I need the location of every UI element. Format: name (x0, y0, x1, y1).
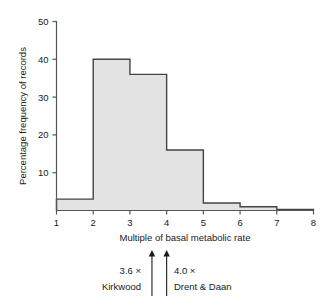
x-tick-label: 2 (91, 217, 96, 228)
annotation-kirkwood-source: Kirkwood (102, 281, 141, 292)
y-axis-ticks: 1020304050 (38, 16, 57, 178)
chart-figure: 1020304050 12345678 Percentage frequency… (0, 0, 333, 307)
y-tick-label: 20 (38, 129, 49, 140)
x-tick-label: 1 (54, 217, 59, 228)
x-tick-label: 3 (127, 217, 132, 228)
x-tick-label: 5 (201, 217, 206, 228)
annotation-arrow-head-kirkwood (149, 250, 155, 257)
x-axis-title: Multiple of basal metabolic rate (120, 232, 251, 243)
y-tick-label: 30 (38, 92, 49, 103)
y-tick-label: 50 (38, 16, 49, 27)
annotation-arrow-head-drent-daan (163, 250, 169, 257)
annotation-kirkwood-value: 3.6 × (120, 265, 141, 276)
annotation-markers (149, 250, 170, 296)
histogram-bars (57, 59, 314, 210)
y-axis-title: Percentage frequency of records (17, 47, 28, 185)
x-tick-label: 7 (274, 217, 279, 228)
x-axis-ticks: 12345678 (54, 211, 316, 228)
histogram-chart: 1020304050 12345678 Percentage frequency… (0, 0, 333, 307)
annotation-drent-daan-source: Drent & Daan (174, 281, 232, 292)
annotation-drent-daan-value: 4.0 × (174, 265, 195, 276)
x-tick-label: 8 (311, 217, 316, 228)
x-tick-label: 6 (237, 217, 242, 228)
x-tick-label: 4 (164, 217, 169, 228)
y-tick-label: 40 (38, 54, 49, 65)
y-tick-label: 10 (38, 167, 49, 178)
